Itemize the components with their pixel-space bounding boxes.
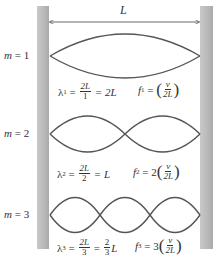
mode-2-wavelength-equation: λ2 = 2L2 = L [57, 164, 110, 183]
wave-drawing [0, 0, 213, 262]
mode-2-frequency-equation: f2 = 2(v2L) [133, 162, 180, 181]
mode-3-label: m = 3 [4, 208, 29, 220]
mode-3-wavelength-equation: λ3 = 2L3 = 23L [57, 238, 117, 257]
mode-1-wavelength-equation: λ1 = 2L1 = 2L [58, 82, 117, 101]
mode-2-wave [50, 116, 200, 152]
mode-2-label: m = 2 [4, 127, 29, 139]
length-label: L [120, 3, 127, 18]
mode-1-frequency-equation: f1 = (v2L) [138, 80, 179, 99]
mode-1-wave [50, 34, 200, 78]
mode-3-frequency-equation: f3 = 3(v2L) [135, 236, 182, 255]
mode-3-wave [50, 198, 200, 233]
standing-waves-diagram: L m = 1 λ1 = 2L1 = 2L f1 = (v2L) m = 2 λ… [0, 0, 213, 262]
mode-1-label: m = 1 [4, 49, 29, 61]
